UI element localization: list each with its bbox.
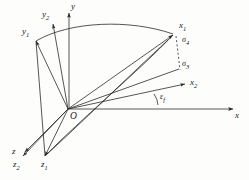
axis-label-z2: z2 bbox=[13, 160, 20, 171]
axis-label-z: z bbox=[12, 147, 16, 156]
axis-label-x2: x2 bbox=[190, 78, 197, 89]
diagram-canvas bbox=[0, 0, 249, 180]
dashed-drop-line bbox=[176, 36, 180, 70]
axis-label-z1: z1 bbox=[41, 160, 48, 171]
angle-arc-epsilon bbox=[154, 94, 158, 105]
curve-inner-sweep bbox=[45, 40, 168, 156]
curve-upper-arc bbox=[36, 24, 173, 41]
annotation-label-epsilon-f: εf bbox=[160, 93, 165, 103]
axes-diagram-figure: y y2 y1 x1 σ4 σ3 x2 εf x O z z2 z1 bbox=[0, 0, 249, 180]
axis-z1-line bbox=[45, 109, 68, 156]
axis-label-y1: y1 bbox=[22, 27, 29, 38]
axis-label-y: y bbox=[71, 2, 75, 11]
axis-label-y2: y2 bbox=[42, 10, 49, 21]
annotation-label-sigma4: σ4 bbox=[182, 36, 189, 46]
axis-label-x: x bbox=[235, 111, 239, 120]
edge-y1-z1 bbox=[36, 41, 45, 156]
axis-y2-line bbox=[53, 24, 68, 109]
annotation-label-sigma3: σ3 bbox=[182, 60, 189, 70]
axis-z2-line bbox=[23, 109, 68, 156]
axis-label-x1: x1 bbox=[179, 21, 186, 32]
origin-label: O bbox=[70, 112, 77, 122]
